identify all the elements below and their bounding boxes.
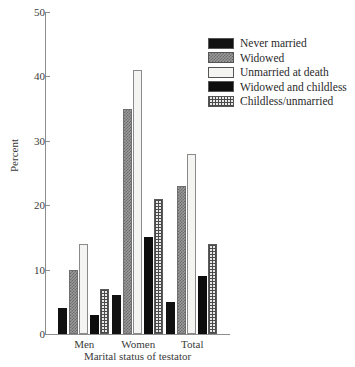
- y-axis-tick-label-text: 20: [23, 200, 45, 211]
- bar: [187, 154, 196, 334]
- y-axis-tick-label: 20: [0, 200, 45, 211]
- bar: [133, 70, 142, 334]
- y-axis-tick-label-text: 50: [23, 7, 45, 18]
- legend-label: Never married: [240, 37, 307, 49]
- y-axis-tick: [45, 334, 50, 335]
- bar-group-women: [112, 12, 165, 334]
- y-axis-tick-label: 40: [0, 71, 45, 82]
- legend-label: Unmarried at death: [240, 66, 329, 78]
- legend-item: Unmarried at death: [208, 65, 355, 80]
- y-axis-tick-label: 0: [0, 329, 45, 340]
- bar: [144, 237, 153, 334]
- y-axis-tick-label: 50: [0, 7, 45, 18]
- legend-item: Childless/unmarried: [208, 94, 355, 109]
- legend-swatch-icon: [208, 81, 234, 92]
- y-axis-tick-label-text: 0: [23, 329, 45, 340]
- bar: [58, 308, 67, 334]
- x-axis-line: [45, 334, 230, 335]
- legend-swatch-icon: [208, 96, 234, 107]
- legend-item: Widowed and childless: [208, 80, 355, 95]
- x-axis-tick-label-women: Women: [108, 338, 168, 350]
- plot-area: [46, 12, 230, 334]
- y-axis-tick-label-text: 30: [23, 136, 45, 147]
- bar: [79, 244, 88, 334]
- legend-swatch-icon: [208, 67, 234, 78]
- x-axis-title: Marital status of testator: [30, 350, 245, 362]
- bar: [177, 186, 186, 334]
- bar-group-men: [58, 12, 111, 334]
- y-axis-tick-label-text: 40: [23, 71, 45, 82]
- y-axis-title: Percent: [9, 126, 20, 186]
- bar: [123, 109, 132, 334]
- bar: [100, 289, 109, 334]
- x-axis-tick-label-total: Total: [162, 338, 222, 350]
- legend-item: Widowed: [208, 51, 355, 66]
- legend-swatch-icon: [208, 38, 234, 49]
- bar: [90, 315, 99, 334]
- legend-swatch-icon: [208, 52, 234, 63]
- y-axis-tick-label: 10: [0, 265, 45, 276]
- legend-item: Never married: [208, 36, 355, 51]
- chart-legend: Never marriedWidowedUnmarried at deathWi…: [208, 36, 355, 109]
- bar: [198, 276, 207, 334]
- bar: [112, 295, 121, 334]
- bar: [154, 199, 163, 334]
- legend-label: Widowed and childless: [240, 81, 347, 93]
- y-axis-tick-label-text: 10: [23, 265, 45, 276]
- legend-label: Childless/unmarried: [240, 95, 333, 107]
- x-axis-tick-label-men: Men: [54, 338, 114, 350]
- legend-label: Widowed: [240, 52, 284, 64]
- bar: [208, 244, 217, 334]
- bar: [166, 302, 175, 334]
- bar-chart: 01020304050 Percent MenWomenTotal Marita…: [0, 0, 355, 367]
- bar: [69, 270, 78, 334]
